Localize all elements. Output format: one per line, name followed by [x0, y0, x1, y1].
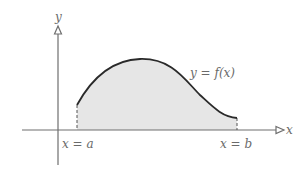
x-axis-label: x [286, 123, 293, 137]
y-axis-arrow-icon [55, 26, 62, 34]
right-bound-label: x = b [220, 137, 252, 151]
curve-label: y = f(x) [189, 66, 235, 80]
left-bound-label: x = a [62, 137, 94, 151]
x-axis-arrow-icon [276, 127, 284, 134]
y-axis-label: y [54, 10, 62, 24]
area-under-curve-diagram: y x y = f(x) x = a x = b [0, 0, 298, 171]
